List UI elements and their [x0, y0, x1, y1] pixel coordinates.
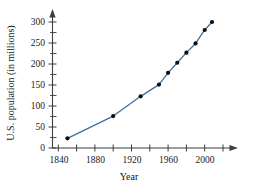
x-tick-label-2000: 2000: [196, 155, 215, 165]
y-tick-labels: 0 50 100 150 200 250 300: [31, 17, 46, 153]
y-axis-title: U.S. population (in millions): [5, 25, 17, 140]
x-axis-title: Year: [120, 171, 139, 182]
data-point: [111, 114, 115, 118]
y-tick-label-100: 100: [31, 101, 46, 111]
x-tick-label-1920: 1920: [123, 155, 142, 165]
y-tick-label-300: 300: [31, 17, 46, 27]
y-tick-label-50: 50: [36, 122, 46, 132]
y-axis-arrow-icon: [49, 9, 55, 18]
chart-figure: 0 50 100 150 200 250 300 1840 1880 1920: [0, 0, 254, 188]
population-series-markers: [65, 20, 214, 141]
y-tick-label-250: 250: [31, 38, 46, 48]
y-tick-label-0: 0: [40, 143, 45, 153]
x-axis: [53, 145, 239, 151]
data-point: [175, 61, 179, 65]
x-axis-arrow-icon: [230, 145, 239, 151]
data-point: [203, 28, 207, 32]
data-point: [166, 71, 170, 75]
data-point: [210, 20, 214, 24]
data-point: [184, 51, 188, 55]
x-tick-labels: 1840 1880 1920 1960 2000: [50, 155, 215, 165]
data-point: [139, 94, 143, 98]
x-tick-label-1880: 1880: [86, 155, 105, 165]
x-tick-label-1840: 1840: [50, 155, 69, 165]
data-point: [65, 136, 69, 140]
data-point: [193, 41, 197, 45]
population-line-chart: 0 50 100 150 200 250 300 1840 1880 1920: [0, 0, 254, 188]
population-series-line: [67, 22, 212, 138]
y-tick-label-150: 150: [31, 80, 46, 90]
x-tick-label-1960: 1960: [159, 155, 178, 165]
y-tick-label-200: 200: [31, 59, 46, 69]
data-point: [157, 82, 161, 86]
